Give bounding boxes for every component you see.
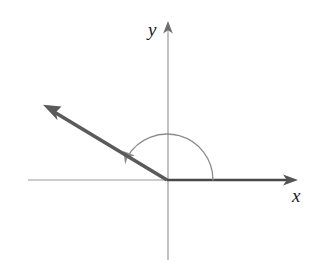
angle-diagram: y x [0, 0, 322, 274]
rotation-arc-path [128, 134, 213, 180]
x-axis-label: x [292, 186, 300, 205]
terminal-side-arrowhead-icon [43, 105, 62, 120]
y-axis-label: y [148, 20, 156, 39]
terminal-side-ray [55, 113, 167, 181]
angle-diagram-canvas [0, 0, 322, 274]
